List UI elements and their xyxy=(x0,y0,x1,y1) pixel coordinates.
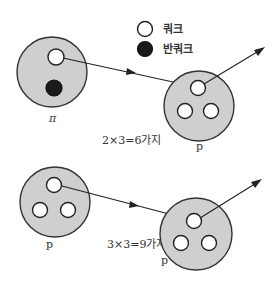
proton-bottom-right-quark-1-icon xyxy=(187,214,202,229)
arrowhead-icon xyxy=(129,201,139,208)
quark-scattering-diagram: 쿼크 반쿼크 π p 2×3=6가지 p 3×3=9가지 xyxy=(0,0,280,290)
pion-quark-icon xyxy=(48,49,64,65)
legend-antiquark-label: 반쿼크 xyxy=(163,42,193,56)
formula-pion-proton: 2×3=6가지 xyxy=(102,134,161,147)
proton-bottom-left-quark-2-icon xyxy=(33,203,48,218)
arrowhead-icon xyxy=(254,47,265,56)
legend-quark-icon xyxy=(138,22,153,37)
proton-bottom-right-quark-3-icon xyxy=(202,236,217,251)
proton-bottom-left-quark-1-icon xyxy=(47,178,62,193)
arrowhead-icon xyxy=(251,179,262,188)
proton-bottom-left: p xyxy=(20,167,90,251)
formula-proton-proton: 3×3=9가지 xyxy=(107,238,166,251)
proton-top-label: p xyxy=(196,140,203,153)
legend-antiquark-icon xyxy=(138,42,153,57)
proton-bottom-right-body xyxy=(160,198,232,270)
pion-antiquark-icon xyxy=(46,80,62,96)
proton-top-quark-2-icon xyxy=(178,104,193,119)
proton-top-quark-3-icon xyxy=(204,104,219,119)
pion-label: π xyxy=(48,112,57,125)
proton-bottom-left-quark-3-icon xyxy=(61,203,76,218)
proton-bottom-left-label: p xyxy=(46,238,53,251)
legend-quark-label: 쿼크 xyxy=(163,22,183,36)
outgoing-arrow-top xyxy=(204,47,265,84)
proton-bottom-right-quark-2-icon xyxy=(174,236,189,251)
proton-bottom-right-label: p xyxy=(161,254,168,267)
proton-bottom-right: p xyxy=(160,198,232,270)
outgoing-arrow-bottom xyxy=(200,179,262,218)
proton-top: p xyxy=(164,71,234,153)
pion: π xyxy=(17,37,87,125)
proton-top-quark-1-icon xyxy=(191,81,206,96)
pion-body xyxy=(17,37,87,107)
legend: 쿼크 반쿼크 xyxy=(138,22,194,57)
